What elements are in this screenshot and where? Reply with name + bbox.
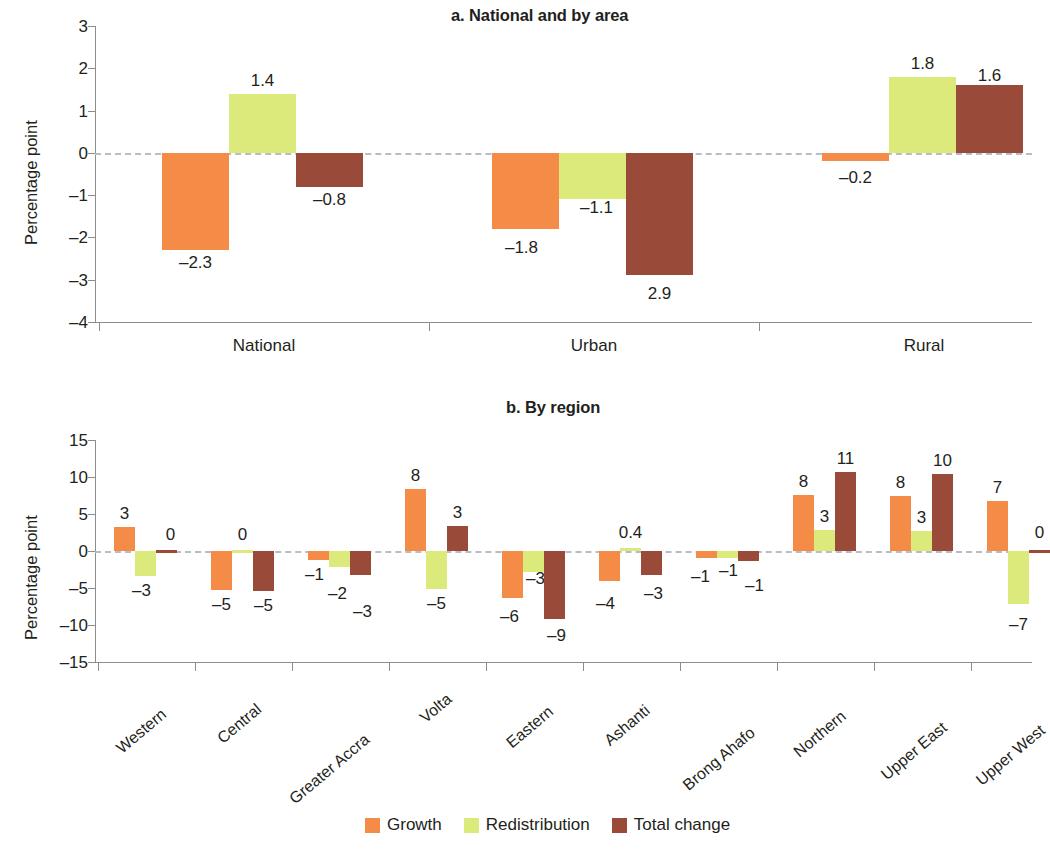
x-axis-tick-mark <box>874 662 875 671</box>
bar-value-label: –0.8 <box>313 191 346 208</box>
bar <box>329 551 350 567</box>
panel-a-title: a. National and by area <box>451 6 628 25</box>
bar <box>822 153 889 161</box>
bar-value-label: –3 <box>353 603 372 620</box>
bar-value-label: 2.9 <box>648 285 672 302</box>
y-axis-tick-mark <box>88 26 95 27</box>
bar <box>162 153 229 250</box>
legend-swatch-icon <box>464 818 479 833</box>
bar <box>1029 550 1050 553</box>
x-axis-tick-mark <box>389 662 390 671</box>
bar <box>911 531 932 551</box>
legend-swatch-icon <box>612 818 627 833</box>
y-axis-tick-mark <box>88 440 95 441</box>
bar-value-label: –3 <box>132 582 151 599</box>
y-axis-tick-mark <box>88 588 95 589</box>
bar-value-label: –2.3 <box>179 254 212 271</box>
bar <box>717 551 738 558</box>
bar <box>211 551 232 590</box>
x-axis-category-label: Northern <box>790 707 849 761</box>
panel-b-plot-area: 151050–5–10–153–30–50–5–1–2–38–53–6–3–9–… <box>95 440 1032 662</box>
bar-value-label: –9 <box>547 627 566 644</box>
bar <box>350 551 371 575</box>
chart-panel-national-by-area: a. National and by area Percentage point… <box>0 0 1032 370</box>
bar-value-label: 3 <box>820 508 829 525</box>
bar <box>793 495 814 551</box>
bar-value-label: –2 <box>328 585 347 602</box>
bar <box>987 501 1008 551</box>
bar-value-label: 1.6 <box>978 67 1002 84</box>
bar-value-label: –1 <box>691 568 710 585</box>
legend-label: Redistribution <box>486 815 590 835</box>
bar-value-label: –6 <box>500 608 519 625</box>
bar-value-label: 3 <box>120 505 129 522</box>
y-axis-tick-mark <box>88 280 95 281</box>
bar <box>626 153 693 276</box>
y-axis-tick-label: –2 <box>69 229 88 246</box>
bar-value-label: 0 <box>238 526 247 543</box>
x-axis-category-label: Urban <box>571 336 617 356</box>
bar-value-label: –1.1 <box>580 199 613 216</box>
legend-item: Redistribution <box>464 815 590 835</box>
bar <box>232 550 253 553</box>
x-axis-tick-mark <box>680 662 681 671</box>
bar-value-label: 10 <box>933 452 952 469</box>
x-axis-category-label: Greater Accra <box>286 731 373 808</box>
y-axis-tick-mark <box>88 68 95 69</box>
bar <box>738 551 759 561</box>
y-axis-tick-label: 5 <box>79 506 88 523</box>
panel-b-y-axis-title: Percentage point <box>22 515 41 640</box>
bar-value-label: –0.2 <box>839 169 872 186</box>
panel-a-y-axis-title: Percentage point <box>22 120 41 245</box>
y-axis-tick-label: –5 <box>69 580 88 597</box>
y-axis-tick-label: 0 <box>79 543 88 560</box>
x-axis-category-label: Eastern <box>503 703 557 752</box>
bar <box>502 551 523 598</box>
bar-value-label: 7 <box>993 479 1002 496</box>
bar <box>296 153 363 187</box>
x-axis-tick-mark <box>292 662 293 671</box>
bar-value-label: 0 <box>166 526 175 543</box>
y-axis-tick-label: –10 <box>60 617 88 634</box>
bar-value-label: –3 <box>526 570 545 587</box>
y-axis-tick-label: 0 <box>79 144 88 161</box>
bar-value-label: –7 <box>1009 616 1028 633</box>
x-axis-tick-mark <box>759 322 760 331</box>
bar <box>492 153 559 229</box>
bar-value-label: 8 <box>896 474 905 491</box>
x-axis-category-label: Brong Ahafo <box>680 724 759 794</box>
legend-label: Growth <box>387 815 442 835</box>
y-axis-tick-label: 10 <box>69 469 88 486</box>
bar <box>889 77 956 153</box>
bar-value-label: 0.4 <box>619 524 643 541</box>
bar <box>426 551 447 589</box>
chart-panel-by-region: b. By region Percentage point 151050–5–1… <box>0 392 1032 853</box>
bar <box>599 551 620 581</box>
y-axis-tick-label: –15 <box>60 654 88 671</box>
bar-value-label: –5 <box>212 596 231 613</box>
y-axis-tick-mark <box>88 477 95 478</box>
bar <box>641 551 662 575</box>
x-axis-baseline <box>95 322 1032 323</box>
bar-value-label: –5 <box>254 597 273 614</box>
x-axis-category-label: Volta <box>416 690 455 727</box>
y-axis-tick-label: –3 <box>69 271 88 288</box>
bar-value-label: 0 <box>1035 524 1044 541</box>
x-axis-tick-mark <box>486 662 487 671</box>
legend-swatch-icon <box>365 818 380 833</box>
panel-b-title: b. By region <box>506 398 600 417</box>
x-axis-tick-mark <box>98 662 99 671</box>
bar <box>135 551 156 576</box>
x-axis-category-label: Rural <box>904 336 945 356</box>
x-axis-category-label: Central <box>214 700 265 747</box>
y-axis-tick-label: 2 <box>79 60 88 77</box>
chart-legend: GrowthRedistributionTotal change <box>365 815 742 835</box>
y-axis-tick-mark <box>88 322 95 323</box>
bar-value-label: 11 <box>837 450 855 467</box>
bar-value-label: 8 <box>411 467 420 484</box>
bar-value-label: –5 <box>427 595 446 612</box>
y-axis-tick-mark <box>88 153 95 154</box>
y-axis-tick-mark <box>88 514 95 515</box>
bar-value-label: 1.4 <box>251 72 275 89</box>
